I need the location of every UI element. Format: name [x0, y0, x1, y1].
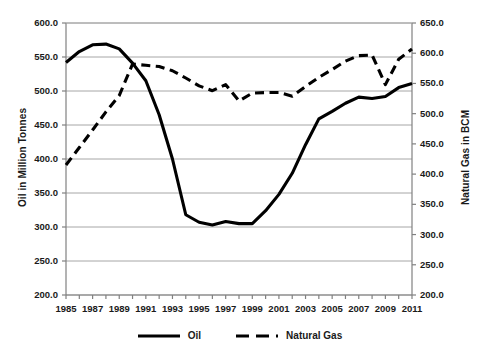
y-axis-left-tick-label: 400.0 — [14, 153, 58, 164]
y-axis-right-tick-label: 650.0 — [420, 17, 464, 28]
y-axis-right-tick-label: 600.0 — [420, 47, 464, 58]
y-axis-right-tick-label: 300.0 — [420, 229, 464, 240]
y-axis-right-tick-label: 200.0 — [420, 289, 464, 300]
y-axis-left-tick-label: 350.0 — [14, 187, 58, 198]
y-axis-right-tick-label: 550.0 — [420, 77, 464, 88]
y-axis-left-tick-label: 200.0 — [14, 289, 58, 300]
legend-item-oil: Oil — [137, 330, 201, 341]
y-axis-left-tick-label: 300.0 — [14, 221, 58, 232]
legend-line-dashed-icon — [235, 331, 279, 341]
legend-line-solid-icon — [137, 331, 181, 341]
y-axis-left-tick-label: 450.0 — [14, 119, 58, 130]
y-axis-left-tick-label: 600.0 — [14, 17, 58, 28]
y-axis-right-title: Natural Gas in BCM — [460, 73, 471, 243]
y-axis-right-tick-label: 250.0 — [420, 259, 464, 270]
y-axis-right-tick-label: 350.0 — [420, 198, 464, 209]
y-axis-left-tick-label: 550.0 — [14, 51, 58, 62]
y-axis-left-tick-label: 500.0 — [14, 85, 58, 96]
legend-label-natural-gas: Natural Gas — [286, 330, 342, 341]
legend-item-natural-gas: Natural Gas — [235, 330, 342, 341]
chart-legend: Oil Natural Gas — [0, 330, 479, 341]
legend-label-oil: Oil — [188, 330, 201, 341]
y-axis-right-tick-label: 400.0 — [420, 168, 464, 179]
series-line-oil — [66, 44, 412, 225]
y-axis-left-tick-label: 250.0 — [14, 255, 58, 266]
series-line-natural-gas — [66, 49, 412, 165]
y-axis-right-tick-label: 450.0 — [420, 138, 464, 149]
y-axis-right-tick-label: 500.0 — [420, 108, 464, 119]
chart-container: Oil in Million Tonnes Natural Gas in BCM… — [0, 0, 479, 363]
x-axis-tick-label: 2011 — [395, 303, 429, 314]
